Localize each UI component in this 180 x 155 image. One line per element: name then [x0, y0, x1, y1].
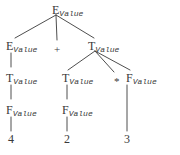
edge-root-to-left-e — [15, 15, 56, 38]
tree-node-mid-f: FValue — [62, 104, 93, 118]
node-attribute: Value — [133, 77, 157, 86]
edge-root-to-right-t — [56, 15, 94, 38]
edge-right-t-to-star — [95, 51, 114, 72]
leaf-label: 4 — [8, 132, 14, 146]
tree-node-left-t: TValue — [6, 72, 37, 86]
node-symbol: F — [62, 103, 69, 117]
tree-terminal-star: * — [114, 76, 120, 87]
terminal-label: * — [114, 75, 120, 87]
parse-tree-figure: EValue EValue TValue FValue + TValue TVa… — [0, 0, 180, 155]
node-symbol: F — [6, 103, 13, 117]
leaf-label: 3 — [124, 132, 130, 146]
node-attribute: Value — [13, 109, 37, 118]
node-symbol: F — [126, 71, 133, 85]
edge-root-to-plus — [56, 15, 57, 40]
tree-node-left-e: EValue — [6, 40, 37, 54]
tree-node-root-e: EValue — [52, 4, 83, 18]
node-attribute: Value — [69, 77, 93, 86]
node-attribute: Value — [13, 77, 37, 86]
tree-node-right-t: TValue — [88, 40, 119, 54]
tree-node-left-f: FValue — [6, 104, 37, 118]
node-attribute: Value — [13, 45, 37, 54]
tree-leaf-three: 3 — [124, 133, 130, 145]
tree-leaf-four: 4 — [8, 133, 14, 145]
node-attribute: Value — [59, 9, 83, 18]
node-attribute: Value — [95, 45, 119, 54]
node-attribute: Value — [69, 109, 93, 118]
tree-node-right-f: FValue — [126, 72, 157, 86]
terminal-label: + — [54, 43, 60, 55]
tree-node-mid-t: TValue — [62, 72, 93, 86]
leaf-label: 2 — [64, 132, 70, 146]
tree-terminal-plus: + — [54, 44, 60, 55]
tree-leaf-two: 2 — [64, 133, 70, 145]
